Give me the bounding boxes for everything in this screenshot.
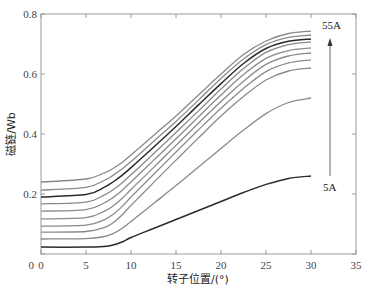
x-tick-label: 0 <box>38 259 44 271</box>
x-tick-label: 15 <box>171 259 183 271</box>
y-axis-title: 磁链/Wb <box>4 112 18 156</box>
x-axis-ticks: 05101520253035 <box>38 14 362 271</box>
x-tick-label: 35 <box>351 259 363 271</box>
y-tick-label: 0 <box>29 259 35 271</box>
annotations: 55A 5A <box>322 19 341 193</box>
annotation-5a: 5A <box>323 181 337 193</box>
curve-35a <box>41 48 311 211</box>
y-tick-label: 0.2 <box>23 188 37 200</box>
y-tick-label: 0.8 <box>23 8 37 20</box>
x-axis-title: 转子位置/(°) <box>167 272 229 286</box>
flux-linkage-chart: 05101520253035 00.20.40.60.8 转子位置/(°) 磁链… <box>0 0 370 297</box>
curves <box>41 31 311 247</box>
x-tick-label: 20 <box>216 259 228 271</box>
curve-25a <box>41 60 311 226</box>
x-tick-label: 25 <box>261 259 273 271</box>
y-tick-label: 0.4 <box>23 128 37 140</box>
arrow-up-icon <box>328 38 333 46</box>
x-tick-label: 30 <box>306 259 318 271</box>
y-tick-label: 0.6 <box>23 68 37 80</box>
curve-5a <box>41 176 311 247</box>
annotation-55a: 55A <box>322 19 341 31</box>
x-tick-label: 5 <box>83 259 89 271</box>
curve-50a <box>41 35 311 190</box>
x-tick-label: 10 <box>126 259 138 271</box>
curve-20a <box>41 68 311 232</box>
